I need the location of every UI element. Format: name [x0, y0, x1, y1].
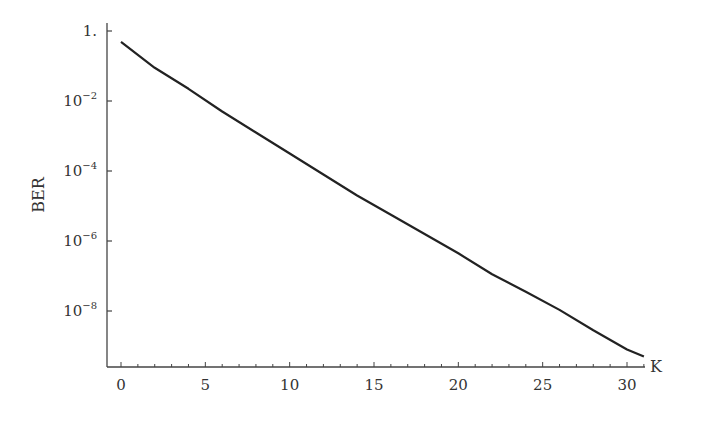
y-axis-ticks: 1.10−210−410−610−8 — [63, 22, 112, 320]
y-tick-label: 10−6 — [63, 230, 97, 250]
ber-vs-k-chart: 1.10−210−410−610−8 051015202530 K BER — [0, 0, 711, 421]
axes — [107, 23, 645, 367]
y-tick-label: 10−8 — [63, 300, 97, 320]
x-tick-label: 0 — [116, 376, 126, 394]
y-tick-label: 10−2 — [63, 90, 97, 110]
x-tick-label: 5 — [201, 376, 211, 394]
x-tick-label: 15 — [364, 376, 383, 394]
x-axis-label: K — [650, 357, 663, 376]
ber-curve — [121, 42, 644, 357]
y-tick-label: 1. — [83, 22, 97, 40]
y-tick-label: 10−4 — [63, 160, 97, 180]
x-tick-label: 20 — [449, 376, 468, 394]
x-tick-label: 30 — [617, 376, 636, 394]
x-tick-label: 10 — [280, 376, 299, 394]
x-tick-label: 25 — [533, 376, 552, 394]
y-axis-label: BER — [29, 176, 48, 212]
